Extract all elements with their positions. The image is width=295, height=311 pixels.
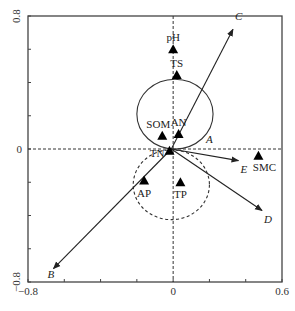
point-label-an: AN: [171, 116, 187, 128]
x-tick-label: 0.6: [275, 285, 289, 297]
triangle-marker-smc: [253, 151, 263, 160]
point-label-ts: TS: [170, 57, 183, 69]
arrow-label-d: D: [263, 213, 272, 225]
biplot-chart: ABCDE pHTSSOMANTNAPTPSMC −0.800.60.80−0.…: [0, 0, 295, 311]
arrow-c: [171, 29, 233, 149]
point-label-smc: SMC: [253, 161, 276, 173]
triangle-marker-tp: [175, 177, 185, 186]
triangle-marker-an: [174, 129, 184, 138]
y-tick-label: −0.8: [10, 272, 22, 292]
arrow-b: [53, 149, 171, 269]
triangle-marker-som: [157, 131, 167, 140]
arrow-d: [171, 149, 262, 211]
arrow-label-e: E: [239, 163, 247, 175]
triangle-marker-ph: [168, 44, 178, 53]
arrow-label-a: A: [205, 133, 213, 145]
point-label-tp: TP: [174, 188, 187, 200]
point-label-tn: TN: [150, 147, 165, 159]
arrow-label-b: B: [47, 268, 54, 280]
variable-points: pHTSSOMANTNAPTPSMC: [137, 31, 276, 200]
x-tick-label: 0: [170, 285, 176, 297]
arrow-label-c: C: [235, 10, 243, 22]
dashed-group-circle: [133, 150, 209, 220]
arrow-e: [171, 149, 238, 161]
vector-arrows: ABCDE: [47, 10, 272, 279]
point-label-ap: AP: [137, 187, 151, 199]
y-tick-label: 0.8: [10, 9, 22, 23]
point-label-som: SOM: [146, 118, 170, 130]
y-tick-label: 0: [17, 143, 23, 155]
point-label-ph: pH: [166, 31, 180, 43]
